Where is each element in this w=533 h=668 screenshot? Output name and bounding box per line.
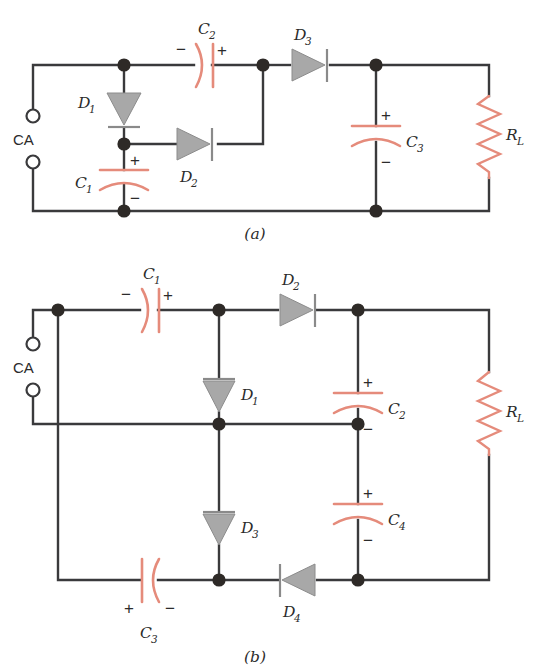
ca-label-a: CA	[13, 131, 34, 148]
capacitor-c1-a[interactable]: + − C 1	[75, 151, 148, 208]
c2-a-sub: 2	[208, 29, 216, 41]
d1-a-sub: 1	[89, 103, 96, 115]
rl-b-sub: L	[516, 412, 524, 424]
ca-label-b: CA	[13, 359, 34, 376]
c3-b-plus: +	[124, 599, 134, 618]
c3-a-minus: −	[381, 153, 391, 172]
diode-d1-b[interactable]: D 1	[203, 379, 259, 412]
d4-b-triangle	[282, 564, 315, 596]
c1-b-plus: +	[163, 286, 173, 305]
node-b-bottom-right	[351, 573, 364, 586]
ca-terminal-bottom-a[interactable]	[27, 156, 40, 169]
circuit-a-nodes	[117, 58, 382, 217]
diode-d3-b[interactable]: D 3	[203, 512, 259, 545]
c2-a-plus: +	[217, 41, 227, 60]
wire-b-right-bottom	[358, 455, 489, 580]
capacitor-c3-b[interactable]: + − C 3	[124, 559, 175, 645]
circuit-b-wires	[33, 310, 489, 580]
c4-b-plus: +	[363, 484, 373, 503]
caption-a: (a)	[244, 225, 265, 243]
c2-a-plate-curved	[196, 44, 202, 87]
capacitor-c4-b[interactable]: + − C 4	[334, 484, 406, 550]
circuit-b-source: CA	[13, 338, 40, 397]
rl-a-sub: L	[516, 135, 524, 147]
d4-b-sub: 4	[293, 612, 301, 624]
c3-b-sub: 3	[151, 633, 158, 645]
caption-b: (b)	[244, 648, 266, 666]
capacitor-c1-b[interactable]: − + C 1	[121, 265, 173, 332]
node-a-bottom-right	[369, 204, 382, 217]
c3-a-plus: +	[381, 106, 391, 125]
c4-b-sub: 4	[398, 520, 406, 532]
node-b-mid-centre	[212, 417, 225, 430]
node-b-bottom-mid	[212, 573, 225, 586]
capacitor-c3-a[interactable]: + − C 3	[352, 106, 424, 172]
rl-a-zigzag	[478, 96, 500, 178]
ca-terminal-top-b[interactable]	[27, 338, 40, 351]
d2-a-triangle	[177, 128, 210, 160]
node-b-top-left	[51, 303, 64, 316]
d3-b-sub: 3	[252, 528, 259, 540]
d3-a-sub: 3	[305, 35, 312, 47]
ca-terminal-bottom-b[interactable]	[27, 384, 40, 397]
node-b-top-mid	[212, 303, 225, 316]
diode-d2-b[interactable]: D 2	[280, 271, 315, 327]
ca-terminal-top-a[interactable]	[27, 110, 40, 123]
circuit-b-nodes	[51, 303, 364, 586]
figure-root: .w { stroke:#3a3a3c; stroke-width:2.4; f…	[0, 0, 533, 668]
c1-a-minus: −	[130, 189, 140, 208]
circuit-a-group: CA D 1 D 2 D 3	[13, 20, 524, 243]
d2-b-triangle	[280, 294, 313, 326]
d1-a-triangle	[107, 93, 141, 125]
node-a-top-mid	[256, 58, 269, 71]
c2-a-minus: −	[176, 40, 186, 59]
circuit-b-group: CA − + C 1 D 2	[13, 265, 524, 666]
circuit-diagram-svg: .w { stroke:#3a3a3c; stroke-width:2.4; f…	[0, 0, 533, 668]
wire-b-top-right	[358, 310, 489, 372]
diode-d1-a[interactable]: D 1	[77, 93, 141, 127]
d3-b-triangle	[203, 514, 235, 545]
node-a-top-left	[117, 58, 130, 71]
d2-a-sub: 2	[190, 177, 198, 189]
wire-a-right-bottom	[376, 178, 489, 211]
c1-b-plate-curved	[142, 289, 148, 332]
c2-b-sub: 2	[398, 409, 406, 421]
resistor-rl-a[interactable]: R L	[478, 96, 524, 178]
node-b-top-right	[351, 303, 364, 316]
c1-a-sub: 1	[86, 183, 93, 195]
wire-b-src-bottom-mid	[33, 390, 219, 424]
wire-a-d2-n2	[218, 65, 263, 144]
diode-d2-a[interactable]: D 2	[177, 128, 212, 189]
resistor-rl-b[interactable]: R L	[478, 372, 524, 455]
c1-b-minus: −	[121, 285, 131, 304]
capacitor-c2-b[interactable]: + − C 2	[334, 373, 406, 439]
rl-b-zigzag	[478, 372, 500, 455]
node-a-bottom-left	[117, 204, 130, 217]
c1-b-sub: 1	[154, 274, 161, 286]
wire-a-top-right	[376, 65, 489, 96]
c4-b-minus: −	[363, 531, 373, 550]
c2-b-minus: −	[363, 420, 373, 439]
wire-b-left-rail	[58, 310, 140, 580]
d1-b-triangle	[203, 381, 235, 412]
c3-a-sub: 3	[417, 142, 424, 154]
c2-b-plus: +	[363, 373, 373, 392]
d1-b-sub: 1	[252, 395, 259, 407]
diode-d4-b[interactable]: D 4	[280, 564, 315, 624]
d2-b-sub: 2	[292, 280, 300, 292]
c1-a-plus: +	[130, 151, 140, 170]
diode-d3-a[interactable]: D 3	[292, 26, 327, 82]
node-a-top-right	[369, 58, 382, 71]
circuit-a-source: CA	[13, 110, 40, 169]
node-a-mid-left	[117, 137, 130, 150]
c3-b-minus: −	[165, 599, 175, 618]
capacitor-c2-a[interactable]: − + C 2	[176, 20, 227, 87]
d3-a-triangle	[292, 49, 325, 81]
